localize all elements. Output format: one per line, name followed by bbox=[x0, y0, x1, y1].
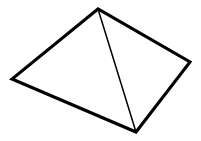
pyramid-line-drawing bbox=[0, 0, 201, 141]
